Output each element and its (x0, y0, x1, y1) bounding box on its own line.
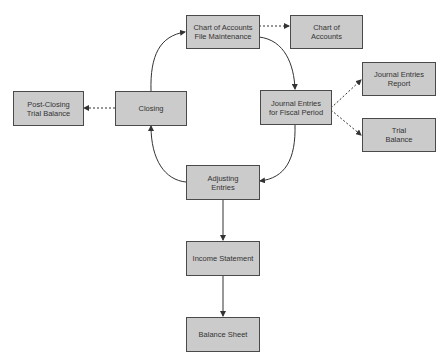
edge-journal-to-trial-balance (331, 110, 361, 135)
node-chart-of-accounts[interactable]: Chart of Accounts (290, 15, 363, 49)
accounting-cycle-diagram: Chart of Accounts File Maintenance Chart… (0, 0, 448, 363)
node-closing[interactable]: Closing (115, 91, 187, 126)
edge-journal-to-adjusting (260, 124, 295, 181)
edge-journal-to-je-report (331, 80, 361, 108)
node-trial-balance[interactable]: Trial Balance (362, 118, 436, 152)
node-balance-sheet[interactable]: Balance Sheet (186, 317, 260, 352)
node-chart-of-accounts-file-maintenance[interactable]: Chart of Accounts File Maintenance (186, 15, 260, 49)
node-adjusting-entries[interactable]: Adjusting Entries (186, 165, 260, 200)
edge-adjusting-to-closing (151, 126, 186, 182)
edge-closing-to-coa-maint (151, 32, 185, 91)
node-journal-entries-fiscal-period[interactable]: Journal Entries for Fiscal Period (260, 90, 332, 125)
node-journal-entries-report[interactable]: Journal Entries Report (362, 62, 436, 96)
node-post-closing-trial-balance[interactable]: Post-Closing Trial Balance (13, 91, 84, 126)
node-income-statement[interactable]: Income Statement (186, 241, 260, 276)
